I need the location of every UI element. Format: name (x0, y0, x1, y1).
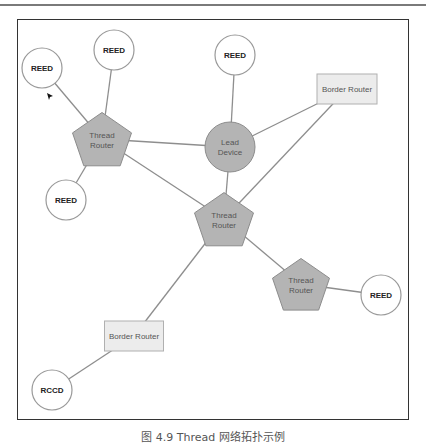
node-thread-router: ThreadRouter (195, 193, 254, 246)
node-label: Lead (221, 138, 239, 147)
node-border-router: Border Router (105, 321, 164, 351)
node-label: Router (212, 221, 236, 230)
node-label: Router (90, 141, 114, 150)
node-label: REED (370, 291, 392, 300)
node-label: RCCD (40, 386, 63, 395)
leader-circle (205, 122, 255, 172)
node-reed: REED (215, 35, 255, 75)
cursor-icon (47, 93, 53, 100)
node-reed: REED (361, 275, 401, 315)
node-label: REED (55, 196, 77, 205)
node-label: REED (103, 46, 125, 55)
node-label: Thread (288, 276, 313, 285)
node-leader: LeadDevice (205, 122, 255, 172)
node-label: Device (218, 148, 243, 157)
node-thread-router: ThreadRouter (73, 113, 132, 166)
node-reed: RCCD (32, 370, 72, 410)
node-label: Thread (89, 131, 114, 140)
nodes-layer: REEDREEDThreadRouterREEDREEDLeadDeviceBo… (22, 30, 401, 410)
node-reed: REED (94, 30, 134, 70)
node-label: Border Router (322, 85, 373, 94)
node-label: Thread (211, 211, 236, 220)
node-label: Router (289, 286, 313, 295)
node-border-router: Border Router (317, 74, 377, 104)
node-label: REED (31, 64, 53, 73)
node-reed: REED (46, 180, 86, 220)
figure-caption: 图 4.9 Thread 网络拓扑示例 (0, 428, 426, 444)
node-label: Border Router (109, 332, 160, 341)
node-thread-router: ThreadRouter (273, 259, 330, 311)
node-label: REED (224, 51, 246, 60)
node-reed: REED (22, 48, 62, 88)
